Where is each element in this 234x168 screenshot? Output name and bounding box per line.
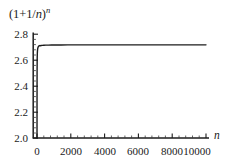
x-tick-label: 0 xyxy=(34,145,40,157)
figure-canvas: (1+1/n)n n xyxy=(0,0,234,168)
x-tick-label: 8000 xyxy=(161,145,183,157)
axis-spines xyxy=(33,33,209,139)
y-tick-label: 2.8 xyxy=(6,28,28,40)
y-tick-label: 2.2 xyxy=(6,106,28,118)
data-series-curve xyxy=(37,45,206,138)
y-tick-label: 2.0 xyxy=(6,132,28,144)
x-tick-label: 10000 xyxy=(183,145,211,157)
y-tick-label: 2.6 xyxy=(6,54,28,66)
x-tick-label: 6000 xyxy=(127,145,149,157)
x-tick-label: 2000 xyxy=(60,145,82,157)
y-tick-label: 2.4 xyxy=(6,80,28,92)
plot-area xyxy=(0,0,234,168)
x-tick-label: 4000 xyxy=(94,145,116,157)
